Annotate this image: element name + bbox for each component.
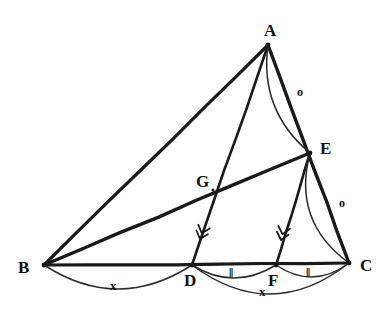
mark-label-arc-angle-A: o — [297, 86, 303, 98]
geometry-figure: ABCDEFG oox‖‖x — [0, 0, 391, 319]
vertex-label-F: F — [268, 272, 278, 289]
vertex-label-B: B — [18, 259, 29, 276]
vertex-dot-E — [308, 151, 313, 156]
mark-label-arc-FC: ‖ — [306, 266, 309, 279]
segment-BE — [44, 153, 310, 265]
mark-label-arc-angle-E: o — [339, 197, 345, 209]
mark-label-arc-DC: x — [259, 285, 266, 298]
vertex-label-G: G — [196, 173, 209, 190]
vertex-label-E: E — [320, 140, 331, 157]
mark-label-arc-DF: ‖ — [229, 266, 232, 279]
segment-EF — [276, 153, 310, 265]
vertex-dot-B — [42, 263, 47, 268]
vertex-label-C: C — [360, 257, 372, 274]
mark-label-arc-BD: x — [110, 279, 117, 292]
vertex-dot-F — [274, 263, 279, 268]
segment-AB — [44, 45, 268, 265]
vertex-dot-D — [190, 263, 195, 268]
arc-DF — [192, 265, 276, 278]
arcs-group — [44, 45, 349, 294]
arc-BD — [44, 265, 192, 289]
vertex-dot-G — [211, 188, 214, 191]
segment-BC — [44, 263, 349, 265]
vertex-label-A: A — [264, 22, 276, 39]
vertex-label-D: D — [184, 272, 196, 289]
parallel-arrow-markers-group — [194, 225, 290, 242]
vertex-dot-A — [266, 43, 271, 48]
vertex-dot-C — [347, 261, 352, 266]
arrow-on-AD — [194, 225, 209, 241]
